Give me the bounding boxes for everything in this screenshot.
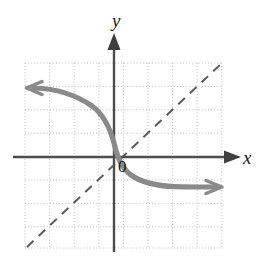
graph-figure: y x 0 (0, 0, 265, 261)
origin-label: 0 (118, 158, 127, 175)
function-curve (27, 82, 223, 194)
y-axis-label: y (112, 11, 120, 30)
y-axis-arrowhead (108, 33, 121, 50)
x-axis-arrowhead (224, 151, 241, 164)
axes (13, 33, 241, 252)
x-axis-label: x (243, 148, 251, 167)
coordinate-plane-svg (0, 0, 265, 261)
